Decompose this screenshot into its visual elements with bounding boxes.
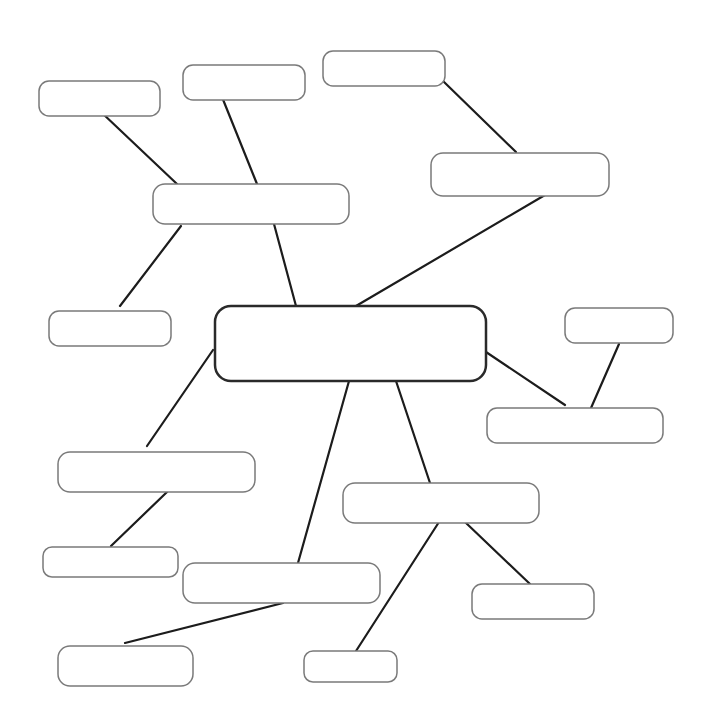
mind-map-diagram	[0, 0, 708, 726]
subtopic-box-m[interactable]	[472, 584, 594, 619]
box-outline	[58, 452, 255, 492]
topic-nodes	[39, 51, 673, 686]
subtopic-box-i[interactable]	[58, 452, 255, 492]
subtopic-box-o[interactable]	[304, 651, 397, 682]
box-outline	[323, 51, 445, 86]
subtopic-box-b[interactable]	[183, 65, 305, 100]
box-outline	[49, 311, 171, 346]
connector-e-center	[356, 195, 545, 306]
box-outline	[183, 563, 380, 603]
connector-center-j	[396, 381, 430, 483]
box-outline	[39, 81, 160, 116]
box-outline	[431, 153, 609, 196]
connector-i-k	[111, 492, 167, 546]
subtopic-box-a[interactable]	[39, 81, 160, 116]
connector-g-h	[591, 344, 619, 408]
connector-d-center	[274, 224, 296, 306]
subtopic-box-j[interactable]	[343, 483, 539, 523]
connector-center-h	[486, 352, 565, 405]
connector-center-l	[298, 381, 349, 563]
connector-center-i	[147, 350, 213, 446]
subtopic-box-k[interactable]	[43, 547, 178, 577]
connector-l-n	[125, 603, 283, 643]
subtopic-box-h[interactable]	[487, 408, 663, 443]
central-topic-box[interactable]	[215, 306, 486, 381]
box-outline	[487, 408, 663, 443]
connector-b-d	[222, 97, 257, 184]
connector-j-m	[465, 522, 530, 584]
box-outline	[565, 308, 673, 343]
box-outline	[153, 184, 349, 224]
connector-d-f	[120, 226, 181, 306]
subtopic-box-l[interactable]	[183, 563, 380, 603]
box-outline	[183, 65, 305, 100]
subtopic-box-g[interactable]	[565, 308, 673, 343]
subtopic-box-f[interactable]	[49, 311, 171, 346]
subtopic-box-d[interactable]	[153, 184, 349, 224]
box-outline	[215, 306, 486, 381]
box-outline	[58, 646, 193, 686]
box-outline	[43, 547, 178, 577]
box-outline	[343, 483, 539, 523]
connector-a-d	[101, 112, 177, 184]
subtopic-box-e[interactable]	[431, 153, 609, 196]
connector-c-e	[443, 81, 516, 152]
box-outline	[304, 651, 397, 682]
subtopic-box-c[interactable]	[323, 51, 445, 86]
box-outline	[472, 584, 594, 619]
subtopic-box-n[interactable]	[58, 646, 193, 686]
